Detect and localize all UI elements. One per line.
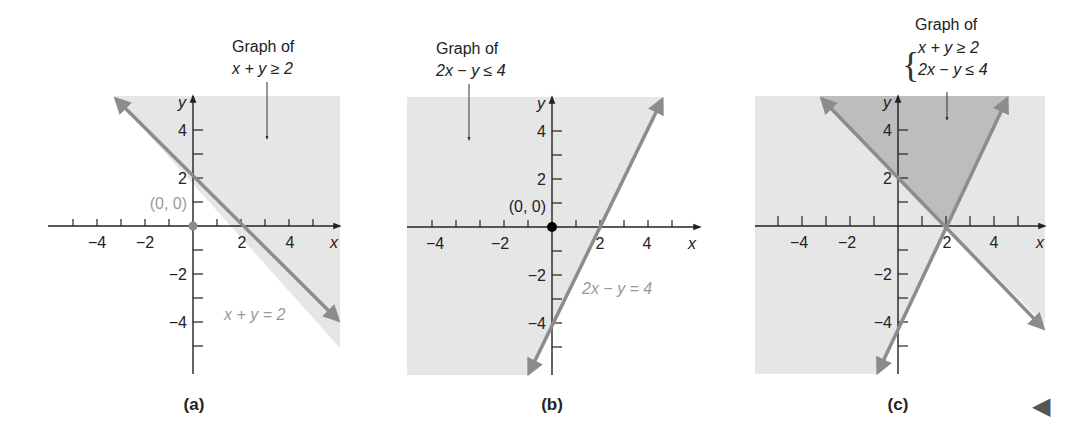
panel-b: −4 −2 2 4 x 4 2 −2 −4 y (0, 0) 2x − y = … xyxy=(407,40,700,414)
y-tick-label: 4 xyxy=(178,122,187,139)
boundary-label: x + y = 2 xyxy=(223,306,285,323)
panel-caption: (c) xyxy=(888,395,909,414)
origin-label: (0, 0) xyxy=(509,198,546,215)
graph-title: Graph of xyxy=(915,16,978,33)
origin-label: (0, 0) xyxy=(150,195,187,212)
y-tick-label: 2 xyxy=(883,170,892,187)
y-tick-label: −4 xyxy=(874,314,892,331)
y-tick-label: −4 xyxy=(528,315,546,332)
panel-caption: (b) xyxy=(541,395,563,414)
x-tick-label: −2 xyxy=(136,234,154,251)
graph-inequality: 2x − y ≤ 4 xyxy=(435,62,506,79)
panel-a: −4 −2 2 4 x 4 2 −2 −4 y (0, 0) x + y = 2… xyxy=(48,38,340,414)
panel-c: −4 −2 2 4 x 4 2 −2 −4 y Graph of { x + y… xyxy=(755,16,1045,414)
x-axis-label: x xyxy=(329,234,339,251)
y-tick-label: 2 xyxy=(537,171,546,188)
y-tick-label: 4 xyxy=(883,122,892,139)
back-triangle-icon[interactable]: ◀ xyxy=(1032,392,1051,420)
x-tick-label: 2 xyxy=(238,234,247,251)
x-tick-label: 2 xyxy=(596,235,605,252)
y-tick-label: −2 xyxy=(528,267,546,284)
x-tick-label: 4 xyxy=(643,235,652,252)
graph-inequality: x + y ≥ 2 xyxy=(231,60,293,77)
y-tick-label: 4 xyxy=(537,123,546,140)
y-axis-label: y xyxy=(882,94,892,111)
x-axis-label: x xyxy=(687,235,697,252)
y-axis-label: y xyxy=(536,95,546,112)
graph-title: Graph of xyxy=(232,38,295,55)
x-tick-label: 4 xyxy=(990,234,999,251)
figure: −4 −2 2 4 x 4 2 −2 −4 y (0, 0) x + y = 2… xyxy=(0,0,1083,442)
x-tick-label: 4 xyxy=(286,234,295,251)
y-axis-label: y xyxy=(177,94,187,111)
panel-caption: (a) xyxy=(184,395,205,414)
x-tick-label: −2 xyxy=(838,234,856,251)
graph-title: Graph of xyxy=(436,40,499,57)
origin-point xyxy=(547,222,557,232)
graph-inequality-1: x + y ≥ 2 xyxy=(917,39,979,56)
x-axis-label: x xyxy=(1035,234,1045,251)
x-tick-label: 2 xyxy=(943,234,952,251)
graph-inequality-2: 2x − y ≤ 4 xyxy=(917,61,988,78)
y-tick-label: −2 xyxy=(874,266,892,283)
y-tick-label: −4 xyxy=(169,314,187,331)
solution-region xyxy=(407,97,663,375)
x-tick-label: −4 xyxy=(426,235,444,252)
y-tick-label: 2 xyxy=(178,170,187,187)
x-tick-label: −4 xyxy=(790,234,808,251)
boundary-label: 2x − y = 4 xyxy=(581,280,652,297)
system-brace: { xyxy=(902,45,919,85)
x-tick-label: −2 xyxy=(491,235,509,252)
y-tick-label: −2 xyxy=(169,266,187,283)
origin-point xyxy=(189,222,198,231)
x-tick-label: −4 xyxy=(88,234,106,251)
